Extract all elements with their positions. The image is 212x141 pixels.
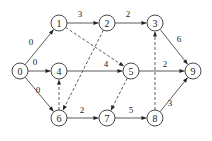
node-label: 0 (18, 66, 23, 77)
edge-weight-label: 2 (126, 9, 131, 19)
node-label: 2 (105, 18, 110, 29)
edge-weight-label: 6 (177, 34, 182, 44)
node-label: 9 (191, 66, 196, 77)
node-label: 6 (57, 113, 62, 124)
edge-weight-label: 2 (163, 59, 168, 69)
network-diagram: 00032642253 0123456789 (0, 0, 212, 141)
node-8: 8 (147, 110, 163, 126)
node-1: 1 (51, 15, 67, 31)
node-label: 1 (57, 18, 62, 29)
node-layer: 0123456789 (12, 15, 201, 126)
node-label: 5 (129, 66, 134, 77)
edge-weight-label: 3 (78, 9, 83, 19)
edge-weight-label: 2 (80, 105, 85, 115)
edge-layer (25, 23, 188, 118)
edge-5-to-7 (111, 78, 127, 110)
edge-weight-label: 0 (36, 85, 41, 95)
node-3: 3 (147, 15, 163, 31)
edge-weight-label: 0 (33, 57, 38, 67)
node-label: 4 (57, 66, 62, 77)
node-label: 3 (153, 18, 158, 29)
edge-2-to-6 (63, 30, 104, 110)
node-2: 2 (99, 15, 115, 31)
node-label: 7 (105, 113, 110, 124)
edge-weight-label: 3 (168, 98, 173, 108)
node-5: 5 (123, 63, 139, 79)
edge-0-to-1 (25, 30, 54, 65)
edge-8-to-9 (160, 78, 188, 112)
node-label: 8 (153, 113, 158, 124)
edge-1-to-5 (66, 27, 124, 66)
edge-weight-label: 4 (104, 59, 109, 69)
node-7: 7 (99, 110, 115, 126)
node-0: 0 (12, 63, 28, 79)
node-9: 9 (185, 63, 201, 79)
edge-weight-label: 5 (129, 105, 134, 115)
edge-weight-label: 0 (29, 37, 34, 47)
node-6: 6 (51, 110, 67, 126)
node-4: 4 (51, 63, 67, 79)
